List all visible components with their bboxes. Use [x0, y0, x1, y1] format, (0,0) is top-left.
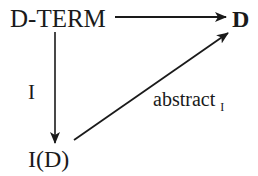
edge-label-abstract-main: abstract — [153, 88, 216, 110]
commutative-diagram: D-TERM D I(D) I abstract I — [0, 0, 258, 176]
node-d-term: D-TERM — [10, 5, 106, 32]
edge-label-abstract: abstract I — [153, 88, 224, 114]
edge-label-i: I — [28, 80, 35, 104]
edge-label-abstract-subscript: I — [220, 100, 224, 114]
node-i-of-d: I(D) — [28, 146, 69, 172]
arrow-id-to-d — [74, 33, 228, 140]
node-d: D — [232, 6, 249, 32]
